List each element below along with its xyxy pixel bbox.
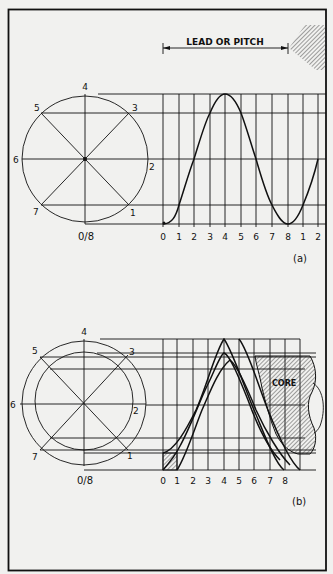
svg-text:2: 2 xyxy=(190,476,196,486)
circle-a-label-6: 6 xyxy=(13,155,19,165)
x-axis-labels-a: 0 1 2 3 4 5 6 7 8 1 2 xyxy=(160,232,321,242)
circle-b-label-7: 7 xyxy=(32,452,38,462)
x-axis-labels-b: 0 1 2 3 4 5 6 7 8 xyxy=(160,476,288,486)
svg-text:7: 7 xyxy=(267,476,273,486)
circle-b-label-4: 4 xyxy=(81,327,87,337)
lead-pitch-label: LEAD OR PITCH xyxy=(186,37,263,47)
svg-text:2: 2 xyxy=(191,232,197,242)
svg-text:2: 2 xyxy=(315,232,321,242)
svg-text:1: 1 xyxy=(176,232,182,242)
grid-a-verticals xyxy=(163,94,318,227)
circle-a-label-1: 1 xyxy=(130,208,136,218)
svg-text:5: 5 xyxy=(236,476,242,486)
svg-text:3: 3 xyxy=(205,476,211,486)
svg-text:0: 0 xyxy=(160,476,166,486)
svg-text:8: 8 xyxy=(285,232,291,242)
figure-a: LEAD OR PITCH xyxy=(13,25,326,264)
svg-text:4: 4 xyxy=(221,476,227,486)
circle-a-label-3: 3 xyxy=(132,103,138,113)
circle-a-label-4: 4 xyxy=(82,82,88,92)
hatched-end-section xyxy=(289,25,326,70)
lead-pitch-dimension: LEAD OR PITCH xyxy=(163,37,288,54)
svg-text:1: 1 xyxy=(174,476,180,486)
svg-text:6: 6 xyxy=(253,232,259,242)
core-label: CORE xyxy=(272,379,296,388)
circle-b-label-0-8: 0/8 xyxy=(77,475,93,486)
caption-a: (a) xyxy=(293,253,307,264)
circle-a-label-0-8: 0/8 xyxy=(78,231,94,242)
circle-b-label-3: 3 xyxy=(129,347,135,357)
circle-b-label-1: 1 xyxy=(127,451,133,461)
figure-b: CORE 4 3 5 6 2 7 1 0/8 0 1 2 3 4 5 6 7 8 xyxy=(10,327,323,507)
circle-b-label-6: 6 xyxy=(10,400,16,410)
svg-text:8: 8 xyxy=(282,476,288,486)
svg-text:7: 7 xyxy=(269,232,275,242)
core-outer-bulge xyxy=(313,383,323,433)
circle-a-label-7: 7 xyxy=(33,207,39,217)
svg-text:1: 1 xyxy=(300,232,306,242)
svg-text:5: 5 xyxy=(238,232,244,242)
helix-construction-diagram: LEAD OR PITCH xyxy=(0,0,333,574)
svg-text:6: 6 xyxy=(251,476,257,486)
circle-b-label-5: 5 xyxy=(32,346,38,356)
svg-text:0: 0 xyxy=(160,232,166,242)
caption-b: (b) xyxy=(292,496,306,507)
svg-text:3: 3 xyxy=(207,232,213,242)
circle-a-label-5: 5 xyxy=(34,103,40,113)
svg-text:4: 4 xyxy=(222,232,228,242)
circle-a-label-2: 2 xyxy=(149,162,155,172)
circle-b-label-2: 2 xyxy=(133,406,139,416)
